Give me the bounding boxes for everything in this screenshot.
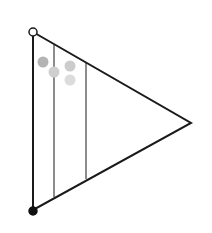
filled-endpoint-circle [29, 207, 37, 215]
gray-dot-2 [49, 67, 60, 78]
triangle-diagram [0, 0, 212, 233]
gray-dot-4 [65, 75, 76, 86]
open-endpoint-circle [29, 28, 37, 36]
gray-dot-3 [65, 61, 76, 72]
gray-dot-1 [38, 57, 49, 68]
